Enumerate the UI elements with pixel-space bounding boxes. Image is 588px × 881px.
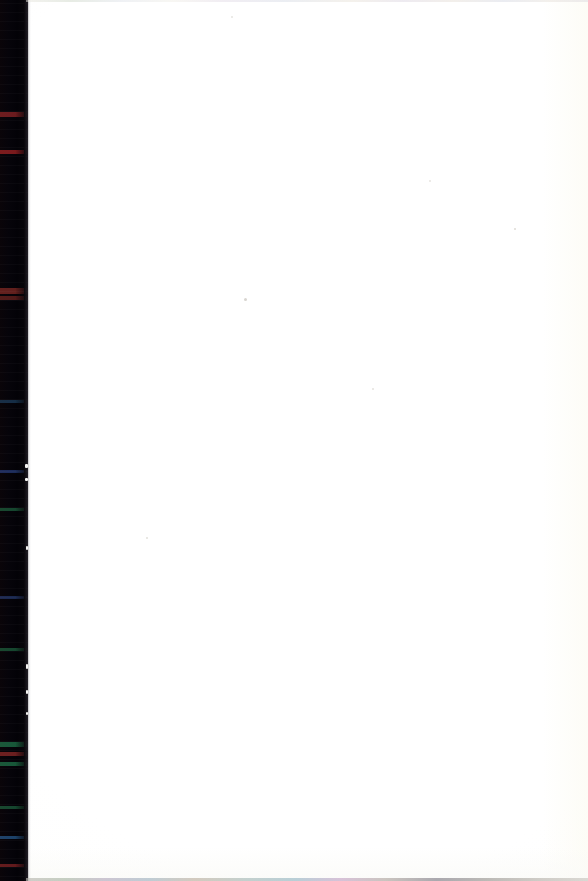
page-surface [0,0,588,881]
scanned-page [0,0,588,881]
gutter-scanline-noise [0,0,28,881]
scanner-binding-shadow [0,0,28,881]
